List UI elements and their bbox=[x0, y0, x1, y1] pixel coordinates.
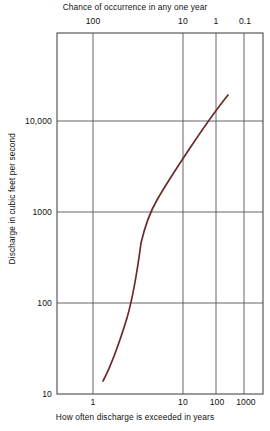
plot-background bbox=[57, 33, 263, 394]
top-axis-title: Chance of occurrence in any one year bbox=[63, 3, 208, 11]
bottom-tick-label-10: 10 bbox=[178, 398, 188, 407]
bottom-tick-label-1: 1 bbox=[91, 398, 96, 407]
bottom-tick-label-1000: 1000 bbox=[236, 398, 256, 407]
bottom-axis-title: How often discharge is exceeded in years bbox=[56, 413, 214, 421]
flood-frequency-chart: Chance of occurrence in any one year 100… bbox=[0, 0, 270, 431]
y-tick-label-100: 100 bbox=[37, 299, 52, 308]
y-tick-label-1000: 1000 bbox=[32, 208, 52, 217]
top-tick-label-100: 100 bbox=[86, 17, 101, 26]
y-tick-label-10000: 10,000 bbox=[25, 117, 52, 126]
top-tick-label-10: 10 bbox=[178, 17, 188, 26]
y-axis-title: Discharge in cubic feet per second bbox=[8, 133, 16, 264]
bottom-tick-label-100: 100 bbox=[210, 398, 225, 407]
y-tick-label-10: 10 bbox=[42, 390, 52, 399]
top-tick-label-1: 1 bbox=[214, 17, 219, 26]
top-tick-label-0-1: 0.1 bbox=[239, 17, 251, 26]
